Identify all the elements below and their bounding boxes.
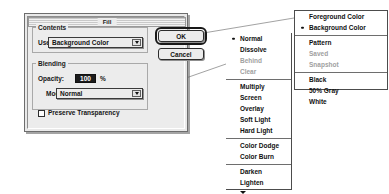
mode-menu-item-label: Behind [240,57,262,65]
contents-menu-separator [295,35,387,36]
mode-menu-item-label: Clear [240,68,256,76]
preserve-transparency-checkbox[interactable] [38,110,45,117]
mode-menu-item[interactable]: Multiply [226,81,291,92]
mode-menu-item[interactable]: Hard Light [226,125,291,136]
contents-menu-item-label: Snapshot [309,61,339,69]
dialog-title: Fill [98,18,117,26]
contents-menu-item: Snapshot [295,59,387,70]
mode-menu-item-label: Dissolve [240,46,267,54]
ok-button[interactable]: OK [158,30,204,42]
opacity-value: 100 [80,75,91,82]
mode-menu-item-label: Overlay [240,105,264,113]
mode-menu-item-label: Soft Light [240,116,270,124]
mode-dropdown[interactable]: Normal [56,88,143,99]
scroll-down-arrow-icon [240,191,246,194]
mode-menu-item-label: Hard Light [240,127,273,135]
contents-menu-item-label: Black [309,76,326,84]
mode-dropdown-value: Normal [60,89,129,98]
mode-menu-item[interactable]: Dissolve [226,44,291,55]
checkmark-bullet-icon [232,37,235,40]
opacity-label: Opacity: [38,75,64,83]
contents-menu-item-label: White [309,98,327,106]
chevron-down-icon [135,92,139,95]
mode-menu-popup[interactable]: NormalDissolveBehindClearMultiplyScreenO… [226,33,292,190]
mode-menu-item: Behind [226,55,291,66]
mode-menu-item-label: Multiply [240,83,265,91]
mode-menu-item[interactable]: Lighten [226,177,291,188]
contents-menu-item[interactable]: Background Color [295,22,387,33]
mode-menu-item[interactable]: Screen [226,92,291,103]
cancel-button[interactable]: Cancel [158,48,204,60]
mode-menu-item-label: Color Dodge [240,142,279,150]
mode-menu-item-label: Screen [240,94,262,102]
mode-menu-item-label: Color Burn [240,153,274,161]
contents-menu-separator [295,72,387,73]
screenshot-canvas: Fill Contents Use: Background Color Blen… [0,0,389,194]
mode-menu-separator [226,164,291,165]
preserve-transparency-label: Preserve Transparency [48,109,120,117]
mode-dropdown-arrow-box[interactable] [132,90,141,97]
contents-menu-item[interactable]: 50% Gray [295,85,387,96]
mode-menu-item[interactable]: Normal [226,33,291,44]
mode-menu-item[interactable]: Color Burn [226,151,291,162]
contents-menu-item[interactable]: Pattern [295,37,387,48]
use-dropdown-arrow-box[interactable] [132,39,141,46]
use-dropdown[interactable]: Background Color [48,37,143,48]
blending-group-label: Blending [36,60,68,67]
contents-menu-popup[interactable]: Foreground ColorBackground ColorPatternS… [294,10,388,90]
blending-group-box [32,63,148,110]
preserve-transparency-row[interactable]: Preserve Transparency [38,109,120,117]
contents-menu-item-label: Background Color [309,24,366,32]
mode-menu-scroll-down[interactable] [226,188,291,194]
use-dropdown-value: Background Color [52,38,129,47]
checkmark-bullet-icon [301,26,304,29]
contents-menu-item[interactable]: Foreground Color [295,11,387,22]
mode-menu-separator [226,138,291,139]
mode-menu-item: Clear [226,66,291,77]
contents-menu-item-label: 50% Gray [309,87,339,95]
contents-group-label: Contents [36,24,68,31]
chevron-down-icon [135,41,139,44]
mode-menu-item[interactable]: Soft Light [226,114,291,125]
mode-menu-item-label: Darken [240,168,262,176]
mode-menu-item-label: Lighten [240,179,263,187]
opacity-percent-sign: % [100,75,106,83]
contents-menu-item-label: Saved [309,50,328,58]
mode-menu-item[interactable]: Darken [226,166,291,177]
contents-menu-item-label: Foreground Color [309,13,364,21]
opacity-input[interactable]: 100 [75,74,96,83]
contents-menu-item[interactable]: White [295,96,387,107]
mode-menu-separator [226,79,291,80]
contents-menu-item-label: Pattern [309,39,331,47]
contents-menu-item[interactable]: Black [295,74,387,85]
contents-menu-item: Saved [295,48,387,59]
mode-menu-item[interactable]: Overlay [226,103,291,114]
mode-menu-item[interactable]: Color Dodge [226,140,291,151]
mode-menu-item-label: Normal [240,35,262,43]
